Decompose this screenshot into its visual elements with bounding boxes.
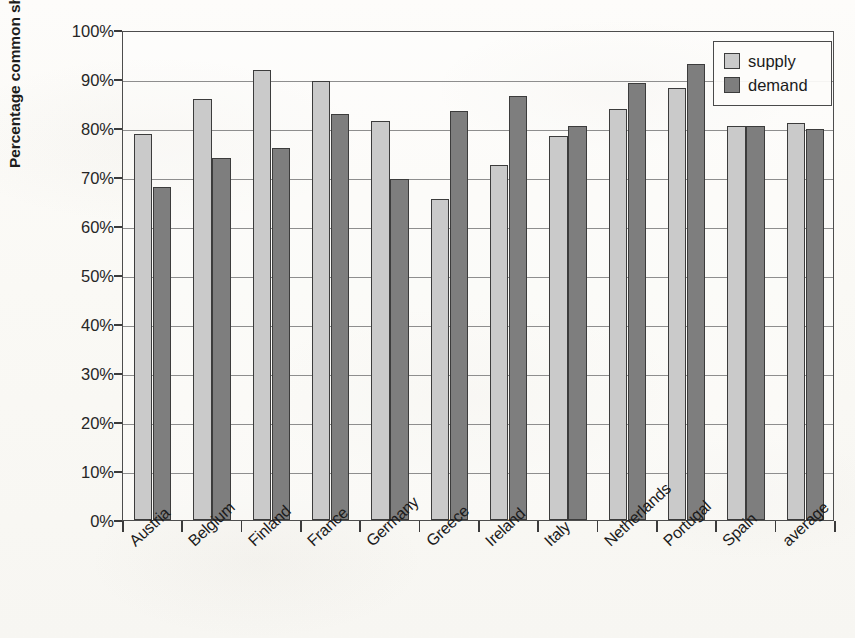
bar-demand-austria: [153, 187, 172, 520]
bar-supply-average: [787, 123, 806, 520]
y-axis-tick-mark: [114, 471, 122, 473]
bar-supply-france: [312, 81, 331, 520]
y-axis-tick-mark: [114, 422, 122, 424]
x-axis-tick-mark: [478, 521, 480, 532]
y-axis-tick-label: 90%: [44, 71, 114, 90]
y-axis-tick-mark: [114, 79, 122, 81]
bar-demand-italy: [568, 126, 587, 520]
x-axis-tick-mark: [656, 521, 658, 532]
bar-supply-greece: [431, 199, 450, 520]
y-axis-tick-mark: [114, 128, 122, 130]
bar-demand-netherlands: [628, 83, 647, 520]
x-axis-tick-mark: [597, 521, 599, 532]
x-axis-tick-mark: [775, 521, 777, 532]
bar-demand-greece: [450, 111, 469, 520]
x-axis-tick-mark: [241, 521, 243, 532]
y-axis-tick-label: 60%: [44, 218, 114, 237]
bar-demand-ireland: [509, 96, 528, 520]
bar-supply-spain: [727, 126, 746, 520]
x-axis-tick-mark: [834, 521, 836, 532]
x-axis-tick-mark: [537, 521, 539, 532]
bar-demand-portugal: [687, 64, 706, 520]
y-axis-tick-labels: 0%10%20%30%40%50%60%70%80%90%100%: [36, 0, 114, 638]
y-axis-tick-label: 80%: [44, 120, 114, 139]
y-axis-tick-label: 30%: [44, 365, 114, 384]
x-axis-tick-mark: [181, 521, 183, 532]
legend-item-supply: supply: [724, 49, 822, 73]
chart-legend: supplydemand: [713, 41, 832, 106]
bar-supply-netherlands: [609, 109, 628, 520]
bar-demand-spain: [746, 126, 765, 520]
bar-supply-belgium: [193, 99, 212, 520]
bar-demand-belgium: [212, 158, 231, 520]
y-axis-tick-label: 50%: [44, 267, 114, 286]
y-axis-tick-label: 10%: [44, 463, 114, 482]
legend-item-demand: demand: [724, 73, 822, 97]
bar-supply-ireland: [490, 165, 509, 520]
x-axis-tick-mark: [715, 521, 717, 532]
legend-label: demand: [748, 77, 808, 94]
x-axis-tick-mark: [419, 521, 421, 532]
x-axis-tick-mark: [359, 521, 361, 532]
bar-supply-austria: [134, 134, 153, 520]
y-axis-tick-mark: [114, 30, 122, 32]
y-axis-tick-label: 40%: [44, 316, 114, 335]
y-axis-title: Percentage common shock: [6, 0, 24, 168]
bar-chart: Percentage common shock 0%10%20%30%40%50…: [0, 0, 855, 638]
y-axis-tick-mark: [114, 275, 122, 277]
y-axis-tick-label: 70%: [44, 169, 114, 188]
legend-swatch-demand: [724, 77, 740, 93]
y-axis-tick-mark: [114, 226, 122, 228]
legend-label: supply: [748, 53, 796, 70]
legend-swatch-supply: [724, 53, 740, 69]
y-axis-tick-mark: [114, 373, 122, 375]
y-axis-tick-mark: [114, 177, 122, 179]
x-axis-tick-mark: [122, 521, 124, 532]
y-axis-tick-mark: [114, 520, 122, 522]
bar-supply-finland: [253, 70, 272, 520]
bar-demand-average: [806, 129, 825, 520]
x-axis-label-italy: Italy: [541, 518, 574, 551]
y-axis-tick-mark: [114, 324, 122, 326]
bar-supply-germany: [371, 121, 390, 520]
bar-demand-france: [331, 114, 350, 520]
y-axis-tick-label: 100%: [44, 22, 114, 41]
y-axis-tick-label: 20%: [44, 414, 114, 433]
bar-supply-portugal: [668, 88, 687, 520]
y-axis-tick-label: 0%: [44, 512, 114, 531]
bar-demand-germany: [390, 179, 409, 520]
bar-demand-finland: [272, 148, 291, 520]
x-axis-tick-mark: [300, 521, 302, 532]
bar-supply-italy: [549, 136, 568, 520]
